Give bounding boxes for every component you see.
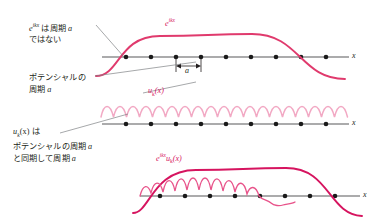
periodic-part-curve-label-tail: (x) <box>155 86 164 95</box>
potential-period-note: ポテンシャルの 周期 a <box>29 72 86 95</box>
top-panel <box>95 25 349 79</box>
periodic-part-note-l3-a: a <box>72 154 76 163</box>
periodic-part-note-line3: と同期して周期 a <box>13 153 92 165</box>
leader-plane-wave <box>96 25 124 57</box>
axis-label-middle: x <box>352 118 356 127</box>
bottom-panel <box>133 160 362 216</box>
potential-period-note-prefix: 周期 <box>29 85 47 94</box>
plane-wave-note: eikx は周期 a ではない <box>29 20 72 46</box>
periodic-part-note-l2-a: a <box>88 142 92 151</box>
axis-label-top: x <box>352 51 356 60</box>
middle-panel <box>60 82 349 133</box>
plane-wave-note-mid: は周期 <box>39 24 68 33</box>
periodic-part-note-line1: uk(x) は <box>13 126 92 141</box>
axis-label-bottom: x <box>363 190 367 199</box>
plane-wave-curve-label-sup: ikx <box>169 17 175 23</box>
plane-wave-note-a: a <box>68 24 72 33</box>
bloch-label-tail: (x) <box>173 154 182 163</box>
potential-period-note-a: a <box>47 85 51 94</box>
plane-wave-curve-label: eikx <box>165 17 175 28</box>
lattice-spacing-label: a <box>185 66 189 75</box>
potential-period-note-line1: ポテンシャルの <box>29 72 86 84</box>
plane-wave-note-line1: eikx は周期 a <box>29 20 72 34</box>
periodic-part-curve <box>101 107 348 118</box>
periodic-part-note-mid: (x) は <box>20 127 40 136</box>
periodic-part-note-l3-prefix: と同期して周期 <box>13 154 72 163</box>
bloch-product-curve-label: eikxuk(x) <box>156 152 182 164</box>
plane-wave-note-line2: ではない <box>29 34 72 46</box>
potential-period-note-line2: 周期 a <box>29 84 86 96</box>
periodic-part-note-line2: ポテンシャルの周期 a <box>13 141 92 153</box>
periodic-part-note: uk(x) は ポテンシャルの周期 a と同期して周期 a <box>13 126 92 164</box>
periodic-part-note-l2-prefix: ポテンシャルの周期 <box>13 142 88 151</box>
periodic-part-curve-label: uk(x) <box>148 86 164 97</box>
